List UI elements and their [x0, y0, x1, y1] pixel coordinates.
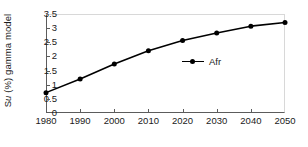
data-point	[214, 30, 219, 35]
series-line-afr	[46, 22, 285, 92]
legend-dot	[190, 59, 195, 64]
chart-screenshot: Su (%) gamma model 0 0.5 1 1.5 2 2.5 3 3…	[0, 0, 308, 147]
data-point	[44, 90, 49, 95]
legend-label-afr: Afr	[209, 56, 221, 67]
data-point	[78, 77, 83, 82]
legend: Afr	[182, 56, 221, 67]
data-point	[283, 20, 288, 25]
data-point	[180, 38, 185, 43]
data-point	[248, 24, 253, 29]
data-point	[146, 48, 151, 53]
legend-marker-icon	[182, 57, 204, 67]
data-point	[112, 62, 117, 67]
data-layer	[0, 0, 308, 147]
series-markers-afr	[44, 20, 288, 95]
